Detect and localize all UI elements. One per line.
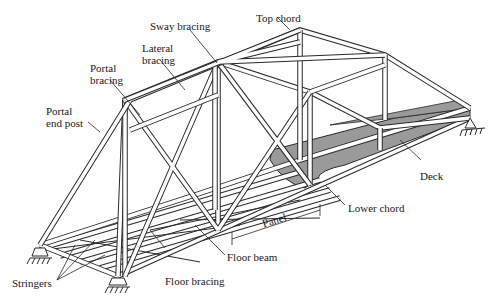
label-stringers: Stringers [12, 277, 52, 289]
floor-system [42, 172, 340, 268]
label-lateral-bracing: Lateral bracing [142, 42, 175, 66]
label-sway-bracing: Sway bracing [150, 20, 210, 32]
support-left-near [105, 278, 130, 293]
label-portal-bracing: Portal bracing [90, 62, 123, 86]
label-floor-bracing: Floor bracing [165, 275, 225, 287]
label-floor-beam: Floor beam [227, 251, 277, 263]
label-portal-end-post: Portal end post [46, 105, 83, 129]
label-top-chord: Top chord [256, 12, 301, 24]
truss-bridge-diagram: .m { fill:none; stroke:#2a2a2a; stroke-w… [0, 0, 498, 298]
label-deck: Deck [420, 170, 443, 182]
label-lower-chord: Lower chord [348, 202, 405, 214]
